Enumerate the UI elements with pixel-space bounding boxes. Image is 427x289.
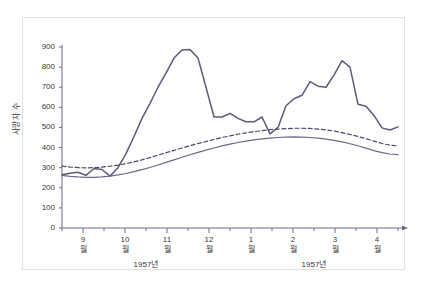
x-tick-month-number: 12 xyxy=(196,235,222,245)
series-observed-deaths xyxy=(62,49,398,176)
chart-tick-marks xyxy=(59,47,398,233)
y-tick-label: 700 xyxy=(29,82,55,91)
x-tick-month-number: 9 xyxy=(70,235,96,245)
x-tick-month-unit: 월 xyxy=(364,245,390,255)
y-tick-label: 400 xyxy=(29,143,55,152)
x-tick-month-number: 2 xyxy=(280,235,306,245)
chart-figure: 사망자 수 0100200300400500600700800900 9월10월… xyxy=(0,0,427,289)
x-tick-label-month: 10월 xyxy=(112,235,138,255)
x-tick-month-unit: 월 xyxy=(322,245,348,255)
series-baseline-deaths-solid xyxy=(62,137,398,177)
y-tick-label: 500 xyxy=(29,122,55,131)
x-tick-label-month: 1월 xyxy=(238,235,264,255)
y-tick-label: 900 xyxy=(29,42,55,51)
x-tick-month-unit: 월 xyxy=(154,245,180,255)
y-tick-label: 100 xyxy=(29,203,55,212)
chart-axes xyxy=(62,45,408,231)
x-tick-month-number: 3 xyxy=(322,235,348,245)
chart-series-lines xyxy=(62,49,398,177)
x-axis-year-label: 1957년 xyxy=(111,258,181,269)
x-tick-month-number: 1 xyxy=(238,235,264,245)
y-tick-label: 600 xyxy=(29,102,55,111)
x-tick-label-month: 12월 xyxy=(196,235,222,255)
x-tick-month-unit: 월 xyxy=(70,245,96,255)
series-expected-deaths-upper-dashed xyxy=(62,128,398,168)
x-tick-month-unit: 월 xyxy=(238,245,264,255)
x-tick-month-number: 10 xyxy=(112,235,138,245)
x-tick-label-month: 9월 xyxy=(70,235,96,255)
x-tick-month-unit: 월 xyxy=(280,245,306,255)
y-tick-label: 300 xyxy=(29,163,55,172)
x-tick-label-month: 11월 xyxy=(154,235,180,255)
x-axis-year-label: 1957년 xyxy=(279,258,349,269)
x-tick-month-unit: 월 xyxy=(112,245,138,255)
x-tick-month-number: 4 xyxy=(364,235,390,245)
x-tick-label-month: 3월 xyxy=(322,235,348,255)
y-tick-label: 200 xyxy=(29,183,55,192)
x-tick-month-number: 11 xyxy=(154,235,180,245)
x-tick-label-month: 2월 xyxy=(280,235,306,255)
y-tick-label: 0 xyxy=(29,223,55,232)
y-tick-label: 800 xyxy=(29,62,55,71)
x-tick-label-month: 4월 xyxy=(364,235,390,255)
x-tick-month-unit: 월 xyxy=(196,245,222,255)
